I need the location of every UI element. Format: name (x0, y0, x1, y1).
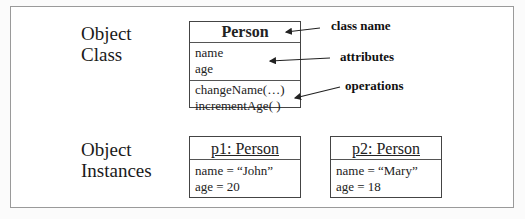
instance-field: name = “Mary” (336, 163, 441, 179)
instance-title: p1: Person (190, 137, 300, 160)
instance-field: age = 18 (336, 179, 441, 195)
instance-fields: name = “Mary” age = 18 (331, 160, 441, 195)
instance-field: age = 20 (195, 179, 300, 195)
instance-title: p2: Person (331, 137, 441, 160)
instance-field: name = “John” (195, 163, 300, 179)
uml-diagram: Object Class Object Instances Person nam… (0, 0, 525, 219)
instance-box-p1: p1: Person name = “John” age = 20 (189, 136, 301, 198)
instance-fields: name = “John” age = 20 (190, 160, 300, 195)
instance-box-p2: p2: Person name = “Mary” age = 18 (330, 136, 442, 198)
